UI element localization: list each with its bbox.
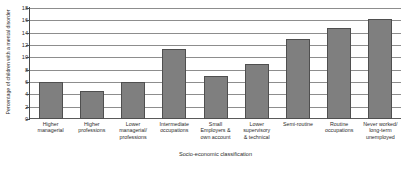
x-axis-title: Socio-economic classification (30, 151, 401, 157)
bars-group (30, 8, 401, 119)
x-tick-label-line: managerial (30, 127, 71, 133)
x-tick-label-line: occupations (319, 127, 360, 133)
y-axis-title-text: Percentage of children with a mental dis… (4, 10, 10, 115)
bar (204, 76, 228, 119)
bar (121, 82, 145, 119)
bar-chart: Percentage of children with a mental dis… (0, 0, 409, 170)
x-tick-label-line: professions (112, 134, 153, 140)
x-tick-label: Semi-routine (277, 121, 318, 127)
x-tick-label-line: Employers & (195, 127, 236, 133)
x-tick-label: Intermediateoccupations (154, 121, 195, 134)
x-tick-label: Lowersupervisory& technical (236, 121, 277, 140)
plot-area (30, 8, 401, 119)
bar (80, 91, 104, 119)
x-axis-category-labels: HighermanagerialHigherprofessionsLowerma… (30, 121, 401, 151)
x-tick-label: Lowermanagerial/professions (112, 121, 153, 140)
bar (368, 19, 392, 119)
bar (286, 39, 310, 119)
x-tick-label-line: professions (71, 127, 112, 133)
x-tick-label: Never worked/long-termunemployed (360, 121, 401, 140)
x-tick-label: SmallEmployers &own account (195, 121, 236, 140)
bar (162, 49, 186, 119)
x-tick-label-line: unemployed (360, 134, 401, 140)
x-tick-label: Higherprofessions (71, 121, 112, 134)
x-tick-label: Routineoccupations (319, 121, 360, 134)
x-tick-label-line: own account (195, 134, 236, 140)
bar (39, 82, 63, 119)
bar (327, 28, 351, 119)
x-tick-label-line: Semi-routine (277, 121, 318, 127)
x-tick-label-line: occupations (154, 127, 195, 133)
x-tick-label-line: & technical (236, 134, 277, 140)
bar (245, 64, 269, 120)
x-tick-label: Highermanagerial (30, 121, 71, 134)
y-axis-tick-labels: 024681012141618 (12, 8, 28, 119)
